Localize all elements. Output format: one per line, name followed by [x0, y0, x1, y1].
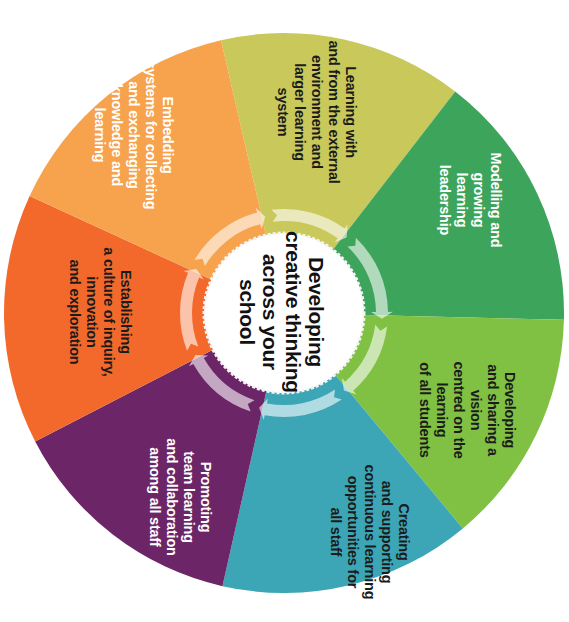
segment-label-team-learning: Promoting team learning and collaboratio… [146, 438, 214, 555]
segment-label-shared-vision: Developing and sharing a vision centred … [416, 359, 518, 461]
segment-label-knowledge-systems: Embedding systems for collecting and exc… [91, 61, 176, 210]
center-title: Developing creative thinking across your… [236, 231, 328, 393]
segment-label-continuous-learning: Creating and supporting continuous learn… [327, 465, 412, 600]
segment-label-leadership: Modelling and growing learning leadershi… [436, 151, 504, 250]
segment-label-culture-of-inquiry: Establishing a culture of inquiry, innov… [66, 247, 134, 376]
segment-label-external-learning: Learning with and from the external envi… [274, 40, 359, 183]
